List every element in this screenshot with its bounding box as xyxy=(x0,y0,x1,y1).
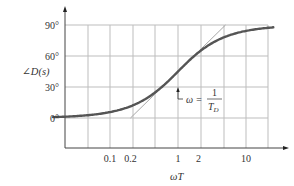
y-axis-label: ∠D(s) xyxy=(22,66,50,78)
x-tick-label: 2 xyxy=(196,153,201,164)
phase-curve-line xyxy=(53,27,273,117)
annotation-denominator: TD xyxy=(208,101,219,114)
grid-lines xyxy=(65,25,268,148)
x-tick-label: 10 xyxy=(241,153,251,164)
annotation-omega: ω = xyxy=(186,94,202,105)
x-tick-label: 0.2 xyxy=(124,153,137,164)
annotation-arrow-icon xyxy=(176,87,179,92)
phase-curve xyxy=(53,27,273,117)
x-tick-labels: 0.10.21210 xyxy=(104,153,251,164)
x-axis-arrow-icon xyxy=(283,146,289,150)
annotation-numerator: 1 xyxy=(212,87,217,98)
y-axis-arrow-icon xyxy=(63,6,67,12)
axes xyxy=(63,6,289,150)
phase-plot: 0.10.21210 0°30°60°90° ∠D(s) ωT ω = 1 TD xyxy=(0,0,294,186)
corner-frequency-annotation: ω = 1 TD xyxy=(176,87,222,114)
x-tick-label: 0.1 xyxy=(104,153,117,164)
y-tick-label: 60° xyxy=(45,51,59,62)
x-axis-label: ωT xyxy=(170,171,184,182)
y-tick-label: 90° xyxy=(45,20,59,31)
y-tick-label: 30° xyxy=(45,82,59,93)
y-tick-label: 0° xyxy=(50,113,59,124)
x-tick-label: 1 xyxy=(176,153,181,164)
